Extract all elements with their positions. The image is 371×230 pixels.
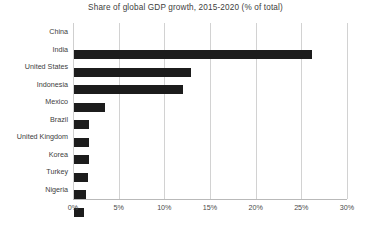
plot-area xyxy=(73,23,347,199)
category-label-mexico: Mexico xyxy=(0,97,68,106)
x-tick-label-20%: 20% xyxy=(236,203,276,212)
x-tick-label-30%: 30% xyxy=(327,203,367,212)
x-tick-label-25%: 25% xyxy=(281,203,321,212)
x-tick-label-10%: 10% xyxy=(144,203,184,212)
bar-mexico xyxy=(74,120,89,129)
category-label-india: India xyxy=(0,45,68,54)
bar-row xyxy=(74,169,347,187)
category-label-turkey: Turkey xyxy=(0,167,68,176)
bar-turkey xyxy=(74,190,86,199)
bar-row xyxy=(74,64,347,82)
bar-row xyxy=(74,99,347,117)
bar-row xyxy=(74,151,347,169)
x-axis-line xyxy=(73,199,347,200)
category-label-indonesia: Indonesia xyxy=(0,80,68,89)
bar-row xyxy=(74,46,347,64)
bar-united-states xyxy=(74,85,183,94)
bar-brazil xyxy=(74,138,89,147)
category-label-united-kingdom: United Kingdom xyxy=(0,132,68,141)
bar-india xyxy=(74,68,191,77)
category-label-korea: Korea xyxy=(0,150,68,159)
x-tick-label-0%: 0% xyxy=(53,203,93,212)
x-tick-label-15%: 15% xyxy=(190,203,230,212)
bar-row xyxy=(74,186,347,204)
bar-united-kingdom xyxy=(74,155,89,164)
bar-row xyxy=(74,81,347,99)
bar-korea xyxy=(74,173,88,182)
chart-title: Share of global GDP growth, 2015-2020 (%… xyxy=(0,3,371,12)
gridline-30% xyxy=(347,23,348,199)
category-label-united-states: United States xyxy=(0,62,68,71)
category-label-china: China xyxy=(0,27,68,36)
x-tick-label-5%: 5% xyxy=(99,203,139,212)
bar-indonesia xyxy=(74,103,105,112)
bar-china xyxy=(74,50,312,59)
bar-row xyxy=(74,134,347,152)
category-label-brazil: Brazil xyxy=(0,115,68,124)
gdp-growth-share-bar-chart: Share of global GDP growth, 2015-2020 (%… xyxy=(0,0,371,230)
bar-row xyxy=(74,116,347,134)
category-label-nigeria: Nigeria xyxy=(0,185,68,194)
